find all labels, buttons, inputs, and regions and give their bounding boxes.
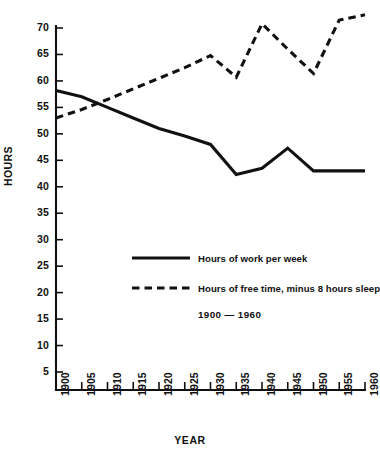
x-tick-label: 1915 xyxy=(137,372,148,396)
y-tick-label: 30 xyxy=(23,234,49,245)
y-tick-label: 45 xyxy=(23,154,49,165)
legend-subtitle: 1900 — 1960 xyxy=(198,309,261,320)
x-tick-label: 1930 xyxy=(215,372,226,396)
x-tick-label: 1940 xyxy=(266,372,277,396)
x-tick-label: 1945 xyxy=(292,372,303,396)
legend-label-free-time: Hours of free time, minus 8 hours sleep xyxy=(198,283,380,294)
x-tick-label: 1925 xyxy=(189,372,200,396)
y-tick-label: 65 xyxy=(23,48,49,59)
chart-figure: 706560555045403530252015105 190019051910… xyxy=(0,0,380,457)
data-series-group xyxy=(56,15,365,175)
x-tick-label: 1935 xyxy=(240,372,251,396)
x-tick-label: 1920 xyxy=(163,372,174,396)
x-tick-label: 1905 xyxy=(86,372,97,396)
x-tick-label: 1960 xyxy=(369,372,380,396)
x-tick-label: 1955 xyxy=(343,372,354,396)
y-tick-label: 40 xyxy=(23,181,49,192)
y-tick-label: 15 xyxy=(23,313,49,324)
series-line-free-time xyxy=(56,15,365,118)
y-axis xyxy=(56,26,63,390)
legend-label-hours-of-work: Hours of work per week xyxy=(198,253,307,264)
series-line-hours-of-work xyxy=(56,90,365,174)
x-tick-label: 1950 xyxy=(318,372,329,396)
x-axis-title: YEAR xyxy=(0,434,380,446)
y-tick-label: 60 xyxy=(23,75,49,86)
y-tick-label: 10 xyxy=(23,340,49,351)
y-axis-title: HOURS xyxy=(2,146,14,186)
legend-line-samples xyxy=(132,258,190,288)
y-tick-label: 70 xyxy=(23,22,49,33)
y-tick-label: 25 xyxy=(23,260,49,271)
y-tick-label: 35 xyxy=(23,207,49,218)
x-tick-label: 1910 xyxy=(112,372,123,396)
x-tick-label: 1900 xyxy=(60,372,71,396)
y-tick-label: 5 xyxy=(23,366,49,377)
y-tick-label: 55 xyxy=(23,101,49,112)
y-tick-label: 50 xyxy=(23,128,49,139)
y-tick-label: 20 xyxy=(23,287,49,298)
